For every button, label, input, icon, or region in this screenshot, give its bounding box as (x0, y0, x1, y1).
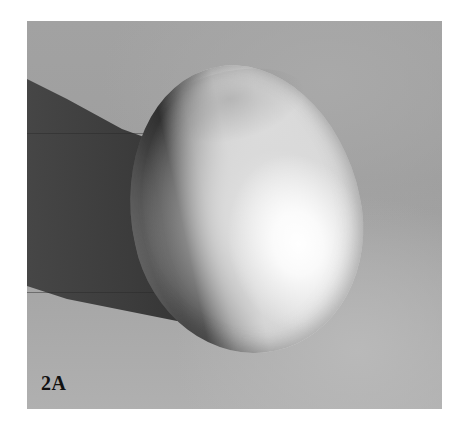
photo-figure: 2A (27, 21, 442, 409)
figure-label: 2A (41, 372, 66, 395)
